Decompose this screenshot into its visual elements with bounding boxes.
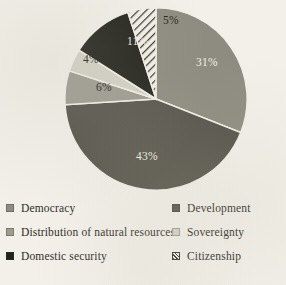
legend-label-distribution-of-natural-resources: Distribution of natural resources	[21, 226, 175, 239]
legend-label-citizenship: Citizenship	[187, 250, 241, 263]
pie-label-development: 43%	[136, 150, 158, 162]
pie-label-sovereignty: 4%	[83, 53, 99, 65]
legend-item-citizenship[interactable]: Citizenship	[172, 249, 241, 263]
legend-label-development: Development	[187, 202, 251, 215]
pie-chart-svg	[63, 6, 249, 192]
pie-slice-group	[65, 8, 247, 190]
chart-legend: Democracy Distribution of natural resour…	[0, 198, 286, 274]
legend-label-democracy: Democracy	[21, 202, 75, 215]
legend-item-sovereignty[interactable]: Sovereignty	[172, 225, 244, 239]
pie-label-domestic-security: 11%	[127, 35, 148, 47]
legend-item-democracy[interactable]: Democracy	[6, 201, 75, 215]
legend-swatch-democracy	[6, 204, 14, 212]
legend-swatch-development	[172, 204, 180, 212]
pie-label-democracy: 31%	[196, 56, 218, 68]
legend-swatch-citizenship	[172, 252, 180, 260]
legend-item-distribution-of-natural-resources[interactable]: Distribution of natural resources	[6, 225, 175, 239]
legend-label-sovereignty: Sovereignty	[187, 226, 244, 239]
pie-label-distribution-of-natural-resources: 6%	[96, 81, 112, 93]
legend-swatch-sovereignty	[172, 228, 180, 236]
legend-item-domestic-security[interactable]: Domestic security	[6, 249, 107, 263]
legend-item-development[interactable]: Development	[172, 201, 251, 215]
pie-label-citizenship: 5%	[163, 14, 179, 26]
legend-swatch-domestic-security	[6, 252, 14, 260]
legend-swatch-distribution-of-natural-resources	[6, 228, 14, 236]
legend-label-domestic-security: Domestic security	[21, 250, 107, 263]
pie-chart: 31% 43% 6% 4% 11% 5%	[0, 0, 286, 196]
